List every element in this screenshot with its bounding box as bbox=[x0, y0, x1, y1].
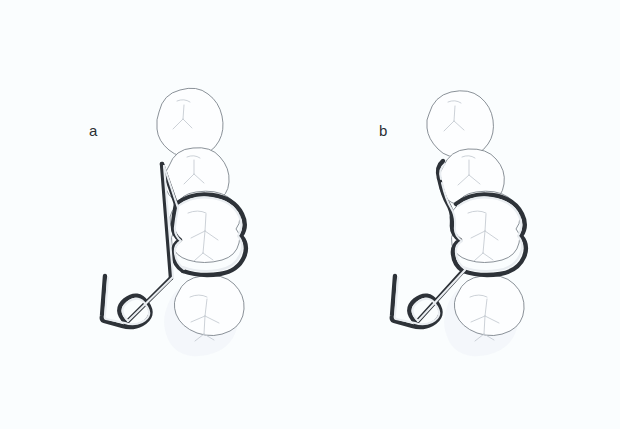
panel-a: a bbox=[0, 0, 310, 429]
figure-container: a bbox=[0, 0, 620, 429]
tooth-second-premolar-upper bbox=[427, 91, 494, 158]
panel-a-drawing bbox=[0, 0, 310, 429]
tooth-second-premolar-upper bbox=[157, 88, 223, 157]
panel-b-drawing bbox=[310, 0, 620, 429]
panel-b: b bbox=[310, 0, 620, 429]
